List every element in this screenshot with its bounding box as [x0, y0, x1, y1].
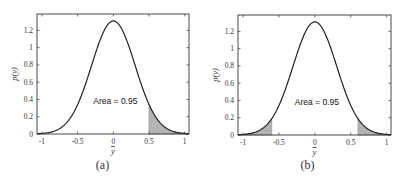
- axes-box: [238, 15, 391, 135]
- x-tick-label: 0: [313, 138, 317, 147]
- y-tick-label: 1.2: [24, 26, 34, 35]
- y-tick-label: 0.8: [24, 60, 34, 69]
- y-tick-label: 0: [230, 131, 234, 140]
- axes-box: [37, 14, 189, 134]
- y-tick-label: 0.6: [225, 79, 235, 88]
- x-tick-label: 0.5: [144, 137, 154, 146]
- chart-b: -1-0.500.5100.20.40.60.811.2yp(y)Area = …: [205, 0, 410, 183]
- chart-panel-a: -1-0.500.5100.20.40.60.811.2yp(y)Area = …: [0, 0, 205, 183]
- y-tick-label: 0: [29, 130, 33, 139]
- density-curve: [238, 22, 391, 135]
- chart-a: -1-0.500.5100.20.40.60.811.2yp(y)Area = …: [0, 0, 205, 183]
- y-tick-label: 1: [230, 44, 234, 53]
- x-tick-label: -1: [240, 138, 246, 147]
- x-tick-label: 0: [111, 137, 115, 146]
- x-tick-label: -1: [39, 137, 45, 146]
- x-axis-label: y: [110, 146, 115, 156]
- y-tick-label: 0.4: [225, 96, 235, 105]
- area-annotation: Area = 0.95: [295, 97, 339, 107]
- density-curve: [37, 21, 189, 134]
- y-axis-label: p(y): [9, 67, 19, 82]
- x-axis-label: y: [312, 147, 317, 157]
- x-tick-label: -0.5: [72, 137, 84, 146]
- y-tick-label: 0.8: [225, 61, 235, 70]
- x-tick-label: -0.5: [273, 138, 285, 147]
- y-tick-label: 1: [29, 43, 33, 52]
- chart-panel-b: -1-0.500.5100.20.40.60.811.2yp(y)Area = …: [205, 0, 410, 183]
- x-tick-label: 1: [385, 138, 389, 147]
- y-tick-label: 0.6: [24, 78, 34, 87]
- x-tick-label: 1: [183, 137, 187, 146]
- y-tick-label: 1.2: [225, 27, 235, 36]
- y-tick-label: 0.2: [24, 112, 34, 121]
- caption-a: (a): [0, 158, 205, 173]
- y-axis-label: p(y): [210, 68, 220, 83]
- caption-b: (b): [205, 158, 410, 173]
- y-tick-label: 0.2: [225, 113, 235, 122]
- x-tick-label: 0.5: [346, 138, 356, 147]
- area-annotation: Area = 0.95: [93, 96, 137, 106]
- y-tick-label: 0.4: [24, 95, 34, 104]
